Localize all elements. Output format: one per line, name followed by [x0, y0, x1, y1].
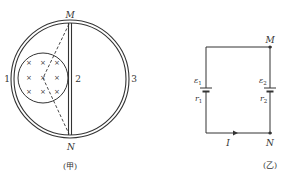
- svg-text:×: ×: [54, 88, 60, 96]
- label-emf2: ε2: [259, 76, 267, 86]
- junction-m: [268, 45, 271, 48]
- svg-text:×: ×: [40, 59, 46, 67]
- label-1: 1: [4, 74, 10, 84]
- label-emf1: ε1: [194, 76, 202, 86]
- junction-n: [268, 131, 271, 134]
- label-m-b: M: [264, 35, 275, 45]
- current-arrow-icon: [233, 131, 238, 136]
- label-m-a: M: [64, 10, 75, 20]
- svg-text:×: ×: [26, 59, 32, 67]
- caption-b: (乙): [263, 161, 277, 170]
- dashed-line-lower: [43, 78, 69, 134]
- label-2: 2: [75, 74, 81, 84]
- svg-text:×: ×: [26, 74, 32, 82]
- label-n-b: N: [265, 138, 275, 148]
- svg-text:×: ×: [40, 88, 46, 96]
- label-current: I: [225, 138, 230, 148]
- svg-text:×: ×: [54, 74, 60, 82]
- field-crosses: × × × × × × × × ×: [26, 59, 60, 96]
- svg-text:×: ×: [26, 88, 32, 96]
- label-3: 3: [131, 74, 137, 84]
- label-r2: r2: [260, 94, 267, 104]
- label-r1: r1: [195, 94, 202, 104]
- caption-a: (甲): [63, 162, 77, 171]
- svg-text:×: ×: [54, 59, 60, 67]
- figure-b: [200, 47, 276, 133]
- svg-text:×: ×: [40, 74, 46, 82]
- diagram-canvas: × × × × × × × × × M N 1 2 3 (甲) M N I ε1…: [0, 0, 282, 174]
- label-n-a: N: [66, 142, 76, 152]
- dashed-line-upper: [43, 24, 69, 78]
